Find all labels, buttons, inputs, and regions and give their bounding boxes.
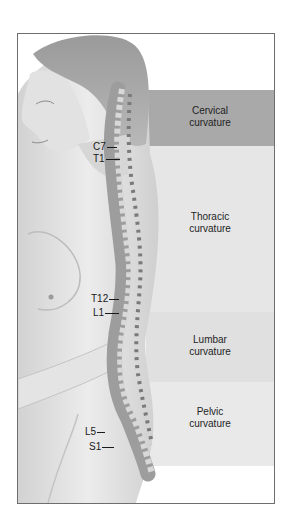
leader-line bbox=[107, 147, 117, 148]
anatomy-illustration bbox=[18, 34, 274, 503]
leader-line bbox=[102, 447, 114, 448]
leader-line bbox=[106, 159, 120, 160]
vertebra-label-t12: T12 bbox=[91, 293, 119, 304]
vertebra-label-l1: L1 bbox=[93, 307, 119, 318]
figure-frame: Cervical curvature Thoracic curvature Lu… bbox=[17, 33, 275, 504]
vertebra-label-t1: T1 bbox=[93, 153, 120, 164]
leader-line bbox=[105, 313, 119, 314]
leader-line bbox=[109, 299, 119, 300]
vertebra-label-s1: S1 bbox=[89, 441, 114, 452]
vertebra-label-c7: C7 bbox=[93, 141, 117, 152]
leader-line bbox=[97, 432, 105, 433]
vertebra-label-l5: L5 bbox=[85, 426, 105, 437]
